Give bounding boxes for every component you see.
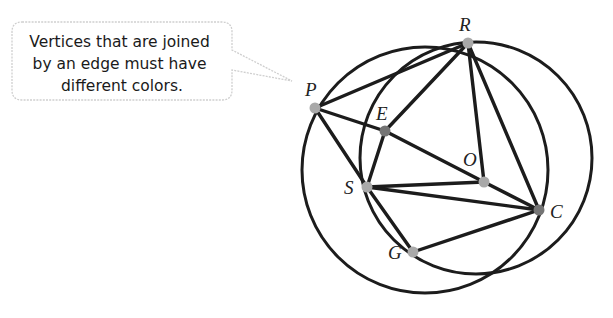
callout-line-2: by an edge must have — [33, 55, 207, 73]
vertex-C — [534, 205, 545, 216]
vertex-P — [310, 103, 321, 114]
vertex-R — [463, 38, 474, 49]
vertex-S — [362, 182, 373, 193]
edge-P-E — [315, 108, 385, 131]
vertices — [310, 38, 545, 258]
edge-E-S — [367, 131, 385, 187]
vertex-label-R: R — [458, 14, 471, 35]
vertex-label-G: G — [388, 242, 402, 263]
vertex-label-P: P — [304, 79, 317, 100]
edge-E-R — [385, 43, 468, 131]
callout-line-1: Vertices that are joined — [29, 33, 209, 51]
vertex-label-O: O — [463, 149, 477, 170]
vertex-label-C: C — [550, 201, 563, 222]
callout-bubble: Vertices that are joined by an edge must… — [12, 22, 292, 100]
vertex-E — [380, 126, 391, 137]
callout-line-3: different colors. — [61, 77, 183, 95]
vertex-G — [408, 247, 419, 258]
vertex-O — [479, 177, 490, 188]
edge-S-O — [367, 182, 484, 187]
circles — [302, 42, 592, 293]
left-circle — [302, 47, 548, 293]
graph-coloring-diagram: Vertices that are joined by an edge must… — [0, 0, 613, 318]
vertex-label-E: E — [375, 103, 388, 124]
vertex-label-S: S — [344, 177, 354, 198]
